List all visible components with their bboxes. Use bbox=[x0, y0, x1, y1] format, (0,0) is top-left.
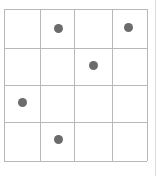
grid-col-line bbox=[74, 9, 75, 161]
grid-row-line bbox=[4, 48, 147, 49]
grid-row-line bbox=[4, 122, 147, 123]
grid-col-line bbox=[4, 9, 5, 161]
grid-col-line bbox=[147, 9, 148, 161]
grid-dot bbox=[18, 98, 27, 107]
grid-row-line bbox=[4, 9, 147, 10]
grid-dot bbox=[89, 61, 98, 70]
grid-dot bbox=[54, 24, 63, 33]
grid-dot bbox=[124, 23, 133, 32]
right-edge-divider bbox=[155, 0, 156, 176]
grid-col-line bbox=[112, 9, 113, 161]
grid-row-line bbox=[4, 85, 147, 86]
dot-grid bbox=[4, 9, 147, 161]
grid-row-line bbox=[4, 161, 147, 162]
grid-dot bbox=[54, 135, 63, 144]
grid-col-line bbox=[40, 9, 41, 161]
